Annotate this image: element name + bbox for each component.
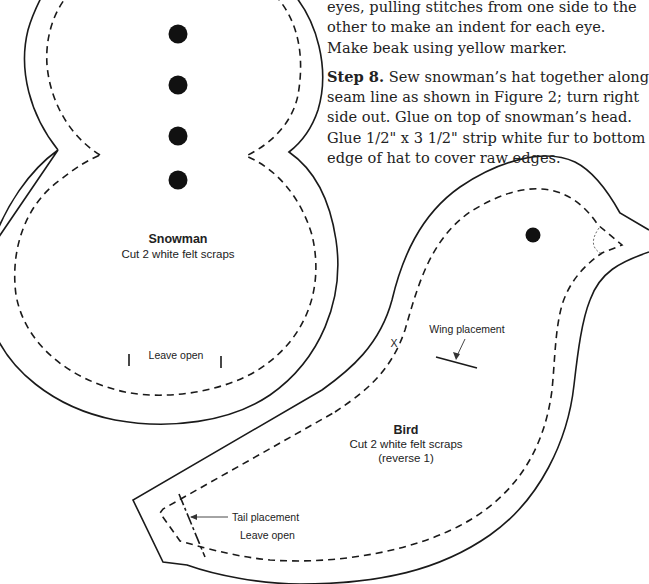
bird-cut-line <box>133 156 649 584</box>
tail-arrow-icon <box>190 514 197 520</box>
bird-x-mark: X <box>388 337 400 349</box>
snowman-button-2 <box>169 76 188 95</box>
snowman-sew-line <box>15 0 316 395</box>
instructions-block: eyes, pulling stitches from one side to … <box>327 0 649 177</box>
snowman-leave-open: Leave open <box>136 349 216 361</box>
step8-paragraph: Step 8. Sew snowman’s hat together along… <box>327 67 649 168</box>
bird-title: Bird <box>366 423 446 437</box>
snowman-button-1 <box>169 25 188 44</box>
bird-reverse-note: (reverse 1) <box>356 452 456 464</box>
wing-placement-label: Wing placement <box>422 323 512 335</box>
bird-eye <box>526 228 541 243</box>
snowman-button-4 <box>169 171 188 190</box>
step8-label: Step 8. <box>327 68 384 85</box>
bird-sew-line <box>160 189 622 561</box>
wing-arrow-icon <box>453 352 460 360</box>
tail-placement-label: Tail placement <box>232 511 306 523</box>
snowman-button-3 <box>169 127 188 146</box>
pattern-page: eyes, pulling stitches from one side to … <box>0 0 649 584</box>
snowman-cut-instruction: Cut 2 white felt scraps <box>108 248 248 260</box>
step7-continuation: eyes, pulling stitches from one side to … <box>327 0 649 58</box>
bird-leave-open: Leave open <box>240 529 310 541</box>
tail-placement-line <box>179 494 205 557</box>
beak-line <box>593 228 602 254</box>
snowman-title: Snowman <box>128 232 228 246</box>
bird-cut-instruction: Cut 2 white felt scraps <box>336 438 476 450</box>
